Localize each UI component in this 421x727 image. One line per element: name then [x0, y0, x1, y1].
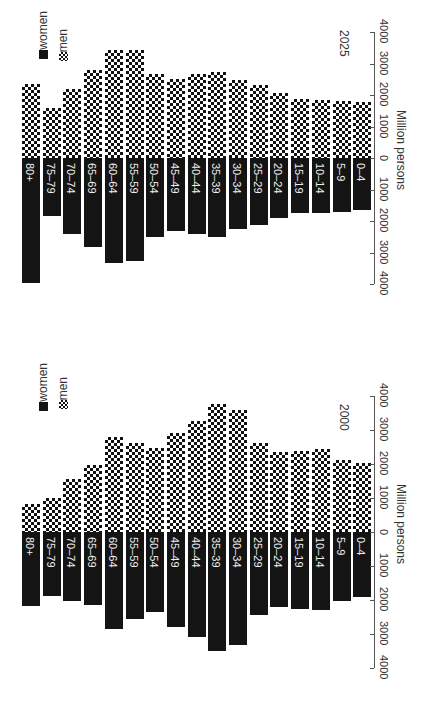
x-axis-line — [374, 396, 375, 668]
age-label: 50–54 — [148, 163, 160, 194]
tick-label: 0 — [378, 155, 390, 161]
pyramid-2025: 80+75–7970–7465–6960–6455–5950–5445–4940… — [0, 0, 421, 364]
tick-label: 2000 — [378, 451, 390, 475]
legend-men: men — [56, 26, 70, 61]
age-label: 45–49 — [169, 537, 181, 568]
axis-tick — [370, 430, 374, 431]
tick-label: 3000 — [378, 621, 390, 645]
tick-label: 1000 — [378, 177, 390, 201]
age-label: 0–4 — [355, 537, 367, 555]
age-label: 75–79 — [45, 537, 57, 568]
bar-men — [208, 404, 226, 532]
axis-tick — [370, 95, 374, 96]
axis-tick — [370, 284, 374, 285]
axis-tick — [370, 127, 374, 128]
bar-men — [146, 448, 164, 532]
age-label: 35–39 — [210, 537, 222, 568]
age-label: 55–59 — [128, 537, 140, 568]
tick-label: 3000 — [378, 240, 390, 264]
bar-men — [291, 99, 309, 158]
bar-men — [229, 410, 247, 532]
tick-label: 3000 — [378, 417, 390, 441]
legend-women-swatch — [39, 50, 48, 59]
axis-tick — [370, 532, 374, 533]
axis-tick — [370, 253, 374, 254]
age-label: 15–19 — [293, 537, 305, 568]
axis-tick — [370, 600, 374, 601]
bar-men — [250, 85, 268, 158]
bar-men — [312, 449, 330, 532]
bar-men — [270, 452, 288, 532]
bar-men — [167, 433, 185, 532]
axis-tick — [370, 221, 374, 222]
age-label: 20–24 — [272, 537, 284, 568]
bar-men — [63, 479, 81, 532]
age-label: 0–4 — [355, 163, 367, 181]
age-label: 40–44 — [190, 163, 202, 194]
age-label: 50–54 — [148, 537, 160, 568]
axis-tick — [370, 190, 374, 191]
age-label: 70–74 — [65, 163, 77, 194]
tick-label: 2000 — [378, 208, 390, 232]
axis-tick — [370, 158, 374, 159]
age-label: 80+ — [24, 163, 36, 182]
legend-men-label: men — [56, 377, 70, 400]
age-label: 35–39 — [210, 163, 222, 194]
legend-men-swatch — [59, 400, 68, 409]
legend-women-label: women — [36, 11, 50, 50]
age-label: 5–9 — [335, 537, 347, 555]
axis-tick — [370, 464, 374, 465]
age-label: 60–64 — [107, 163, 119, 194]
axis-title: Million persons — [394, 484, 408, 564]
age-label: 20–24 — [272, 163, 284, 194]
year-label: 2000 — [337, 404, 351, 431]
age-label: 10–14 — [314, 163, 326, 194]
age-label: 70–74 — [65, 537, 77, 568]
bar-men — [43, 108, 61, 158]
age-label: 45–49 — [169, 163, 181, 194]
age-label: 25–29 — [252, 163, 264, 194]
legend-men-swatch — [59, 52, 68, 61]
age-label: 75–79 — [45, 163, 57, 194]
bar-men — [208, 72, 226, 158]
age-label: 15–19 — [293, 163, 305, 194]
tick-label: 4000 — [378, 383, 390, 407]
axis-tick — [370, 566, 374, 567]
age-label: 5–9 — [335, 163, 347, 181]
axis-title: Million persons — [394, 110, 408, 190]
tick-label: 3000 — [378, 51, 390, 75]
pyramid-2000: 80+75–7970–7465–6960–6455–5950–5445–4940… — [0, 364, 421, 727]
bar-men — [126, 50, 144, 158]
bar-men — [312, 100, 330, 158]
age-label: 55–59 — [128, 163, 140, 194]
bar-men — [291, 451, 309, 532]
tick-label: 2000 — [378, 587, 390, 611]
age-label: 80+ — [24, 537, 36, 556]
bar-men — [353, 463, 371, 532]
age-label: 40–44 — [190, 537, 202, 568]
bar-men — [22, 504, 40, 532]
axis-tick — [370, 64, 374, 65]
tick-label: 2000 — [378, 82, 390, 106]
tick-label: 1000 — [378, 485, 390, 509]
age-label: 25–29 — [252, 537, 264, 568]
tick-label: 4000 — [378, 19, 390, 43]
tick-label: 1000 — [378, 114, 390, 138]
legend-women: women — [36, 8, 50, 59]
tick-label: 0 — [378, 529, 390, 535]
year-label: 2025 — [337, 30, 351, 57]
bar-men — [188, 74, 206, 158]
age-label: 30–34 — [231, 537, 243, 568]
bar-men — [43, 498, 61, 532]
bar-men — [229, 80, 247, 158]
bar-men — [105, 437, 123, 532]
bar-men — [250, 443, 268, 532]
age-label: 65–69 — [86, 163, 98, 194]
bar-men — [84, 465, 102, 532]
bar-men — [270, 93, 288, 158]
tick-label: 1000 — [378, 553, 390, 577]
age-label: 30–34 — [231, 163, 243, 194]
axis-tick — [370, 32, 374, 33]
legend-men: men — [56, 374, 70, 409]
legend-women-swatch — [39, 402, 48, 411]
